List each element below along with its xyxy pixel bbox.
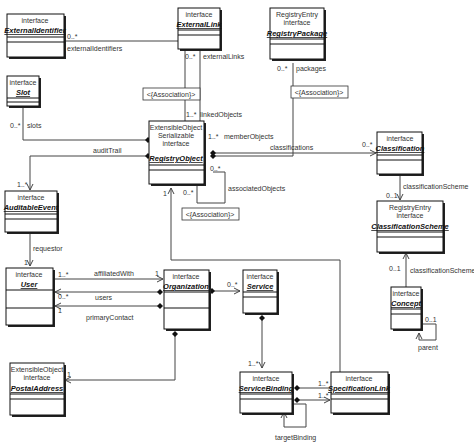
svg-text:0..*: 0..*: [227, 281, 238, 288]
svg-text:0..*: 0..*: [185, 53, 196, 60]
svg-text:affiliatedWith: affiliatedWith: [94, 270, 134, 277]
svg-text:ExtensibleObject: ExtensibleObject: [150, 124, 203, 132]
svg-text:ExtensibleObject: ExtensibleObject: [11, 366, 64, 374]
uml-class-diagram: <{Association}> <{Association}> <{Associ…: [0, 0, 474, 445]
svg-text:associatedObjects: associatedObjects: [228, 185, 286, 193]
association-class-3: <{Association}>: [182, 208, 239, 220]
svg-text:interface: interface: [186, 11, 213, 18]
class-user: interface User: [6, 268, 55, 327]
svg-text:1: 1: [163, 190, 167, 197]
svg-text:primaryContact: primaryContact: [86, 314, 134, 322]
svg-text:interface: interface: [284, 19, 311, 26]
svg-text:1: 1: [67, 371, 71, 378]
svg-text:1..*: 1..*: [186, 111, 197, 118]
svg-text:classificationScheme: classificationScheme: [403, 183, 468, 190]
svg-text:interface: interface: [387, 135, 414, 142]
class-organization: interface Organization: [163, 270, 211, 331]
svg-text:ExternalIdentifier: ExternalIdentifier: [4, 26, 66, 35]
svg-text:interface: interface: [16, 271, 43, 278]
svg-text:memberObjects: memberObjects: [224, 133, 274, 141]
svg-text:ClassificationScheme: ClassificationScheme: [371, 222, 449, 231]
svg-text:0..*: 0..*: [58, 293, 69, 300]
svg-text:1: 1: [58, 307, 62, 314]
edges: [23, 41, 436, 427]
svg-text:users: users: [95, 294, 113, 301]
class-slot: interface Slot: [7, 76, 41, 108]
svg-text:1..*: 1..*: [208, 133, 219, 140]
svg-text:classifications: classifications: [270, 144, 314, 151]
svg-text:0..*: 0..*: [210, 165, 221, 172]
svg-text:linkedObjects: linkedObjects: [200, 111, 243, 119]
svg-text:SpecificationLink: SpecificationLink: [328, 384, 391, 393]
class-external-identifier: interface ExternalIdentifier: [4, 14, 66, 59]
svg-text:1..*: 1..*: [17, 181, 28, 188]
svg-text:interface: interface: [253, 375, 280, 382]
svg-text:Serializable: Serializable: [158, 132, 194, 139]
svg-text:auditTrail: auditTrail: [93, 147, 122, 154]
svg-text:interface: interface: [346, 375, 373, 382]
svg-text:externalIdentifiers: externalIdentifiers: [67, 45, 123, 52]
class-external-link: interface ExternalLink: [176, 8, 222, 51]
association-class-1: <{Association}>: [143, 88, 200, 100]
svg-text:RegistryEntry: RegistryEntry: [389, 204, 432, 212]
svg-text:externalLinks: externalLinks: [203, 53, 245, 60]
svg-text:packages: packages: [296, 65, 326, 73]
svg-text:1: 1: [155, 270, 159, 277]
svg-text:1..*: 1..*: [318, 392, 329, 399]
svg-text:0..1: 0..1: [425, 316, 437, 323]
class-concept: interface Concept: [391, 287, 423, 331]
svg-text:PostalAddress: PostalAddress: [11, 384, 64, 393]
svg-text:1: 1: [24, 259, 28, 266]
svg-text:RegistryEntry: RegistryEntry: [276, 11, 319, 19]
svg-text:interface: interface: [173, 273, 200, 280]
svg-text:<{Association}>: <{Association}>: [186, 211, 235, 219]
svg-text:RegistryObject: RegistryObject: [149, 154, 203, 163]
svg-text:classificationScheme: classificationScheme: [410, 267, 474, 274]
svg-text:parent: parent: [418, 344, 438, 352]
svg-text:AuditableEvent: AuditableEvent: [3, 203, 59, 212]
svg-text:0..1: 0..1: [389, 265, 401, 272]
class-auditable-event: interface AuditableEvent: [3, 191, 59, 234]
class-specification-link: interface SpecificationLink: [328, 372, 391, 415]
svg-text:interface: interface: [393, 290, 420, 297]
svg-text:ServiceBinding: ServiceBinding: [239, 384, 294, 393]
svg-text:interface: interface: [10, 79, 37, 86]
svg-text:Slot: Slot: [16, 88, 31, 97]
svg-text:targetBinding: targetBinding: [275, 434, 316, 442]
svg-text:0..*: 0..*: [277, 65, 288, 72]
svg-text:slots: slots: [27, 122, 42, 129]
svg-text:interface: interface: [22, 17, 49, 24]
association-class-2: <{Association}>: [291, 86, 348, 98]
svg-text:interface: interface: [397, 212, 424, 219]
class-classification: interface Classification: [376, 132, 425, 176]
svg-text:interface: interface: [24, 374, 51, 381]
svg-text:Classification: Classification: [376, 144, 425, 153]
svg-text:0..*: 0..*: [183, 189, 194, 196]
class-registry-package: RegistryEntry interface RegistryPackage: [267, 8, 327, 61]
svg-text:0..*: 0..*: [67, 33, 78, 40]
svg-text:0..*: 0..*: [10, 122, 21, 129]
class-classification-scheme: RegistryEntry interface ClassificationSc…: [371, 201, 449, 254]
svg-text:requestor: requestor: [33, 245, 63, 253]
class-registry-object: ExtensibleObject Serializable interface …: [149, 121, 206, 186]
svg-text:1..*: 1..*: [58, 271, 69, 278]
svg-text:interface: interface: [163, 140, 190, 147]
svg-text:<{Association}>: <{Association}>: [295, 89, 344, 97]
class-postal-address: ExtensibleObject interface PostalAddress: [10, 363, 66, 417]
svg-text:<{Association}>: <{Association}>: [147, 91, 196, 99]
svg-text:0..1: 0..1: [386, 192, 398, 199]
svg-text:RegistryPackage: RegistryPackage: [267, 29, 327, 38]
svg-text:interface: interface: [247, 273, 274, 280]
svg-text:Service: Service: [247, 282, 274, 291]
svg-text:ExternalLink: ExternalLink: [176, 20, 222, 29]
svg-text:1..*: 1..*: [248, 360, 259, 367]
svg-text:0..*: 0..*: [362, 141, 373, 148]
class-service-binding: interface ServiceBinding: [239, 372, 294, 415]
class-service: interface Service: [243, 270, 279, 315]
svg-text:User: User: [21, 280, 39, 289]
svg-text:Concept: Concept: [391, 299, 422, 308]
svg-text:Organization: Organization: [163, 282, 209, 291]
svg-text:interface: interface: [18, 194, 45, 201]
